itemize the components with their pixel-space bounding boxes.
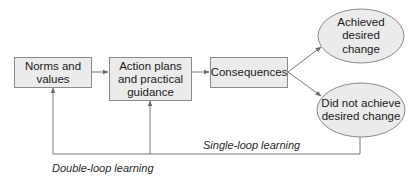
not-achieved-desired-change-node: Did not achieve desired change bbox=[317, 83, 405, 137]
consequences-label: Consequences bbox=[211, 66, 288, 79]
norms-and-values-box: Norms and values bbox=[14, 57, 92, 88]
arrow-consequences-to-achieved bbox=[288, 47, 321, 72]
achieved-desired-change-label: Achieved desired change bbox=[333, 16, 389, 57]
action-plans-label: Action plans and practical guidance bbox=[111, 60, 191, 99]
double-loop-learning-label: Double-loop learning bbox=[52, 162, 154, 174]
action-plans-box: Action plans and practical guidance bbox=[109, 57, 192, 101]
single-loop-learning-label: Single-loop learning bbox=[203, 139, 300, 151]
norms-and-values-label: Norms and values bbox=[23, 60, 83, 86]
not-achieved-desired-change-label: Did not achieve desired change bbox=[318, 97, 404, 124]
achieved-desired-change-node: Achieved desired change bbox=[318, 9, 404, 63]
consequences-box: Consequences bbox=[210, 57, 288, 88]
